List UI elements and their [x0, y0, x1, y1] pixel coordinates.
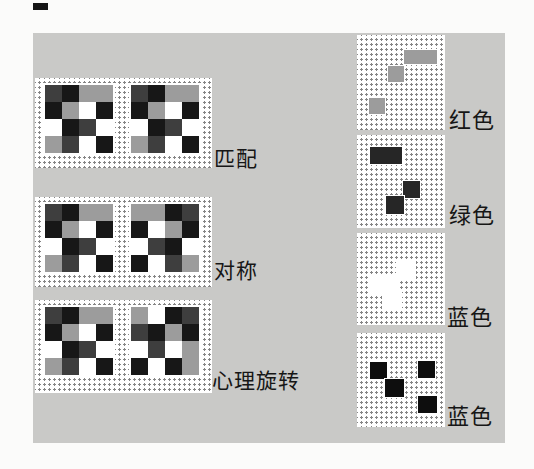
- label-blue-1: 蓝色: [447, 299, 493, 331]
- color-block: [369, 98, 385, 114]
- color-block: [388, 66, 404, 82]
- grid-cell: [96, 238, 113, 255]
- grid-cell: [79, 238, 96, 255]
- scan-artifact-mark: [33, 3, 48, 10]
- grid-cell: [96, 136, 113, 153]
- grid-cell: [148, 119, 165, 136]
- color-block: [370, 147, 402, 164]
- grid-cell: [182, 341, 199, 358]
- grid-cell: [148, 341, 165, 358]
- grid-cell: [148, 307, 165, 324]
- grid-cell: [62, 307, 79, 324]
- grid-cell: [165, 221, 182, 238]
- grid-cell: [182, 324, 199, 341]
- grid-cell: [182, 238, 199, 255]
- grid-cell: [79, 136, 96, 153]
- grid-cell: [96, 341, 113, 358]
- grid-cell: [131, 136, 148, 153]
- color-block: [418, 396, 437, 413]
- grid-cell: [165, 238, 182, 255]
- grid-cell: [79, 324, 96, 341]
- grid-cell: [45, 119, 62, 136]
- grid-cell: [165, 136, 182, 153]
- grid-cell: [148, 136, 165, 153]
- grid-cell: [45, 204, 62, 221]
- grid-cell: [96, 255, 113, 272]
- label-match: 匹配: [214, 142, 258, 172]
- grid-cell: [165, 341, 182, 358]
- panel-symmetry: [35, 197, 212, 287]
- grid-cell: [45, 221, 62, 238]
- grid-cell: [148, 358, 165, 375]
- stimulus-grid-right: [129, 305, 201, 377]
- stimulus-grid-right: [129, 202, 201, 274]
- stimulus-grid-left: [43, 305, 115, 377]
- color-block: [404, 50, 437, 64]
- grid-cell: [148, 238, 165, 255]
- grid-cell: [131, 119, 148, 136]
- color-block: [397, 262, 415, 280]
- grid-cell: [96, 307, 113, 324]
- grid-cell: [182, 85, 199, 102]
- grid-cell: [96, 102, 113, 119]
- grid-cell: [148, 102, 165, 119]
- grid-cell: [62, 255, 79, 272]
- color-block: [386, 196, 404, 214]
- panel-match: [35, 78, 212, 168]
- stimulus-grid-left: [43, 202, 115, 274]
- grid-cell: [182, 102, 199, 119]
- grid-cell: [62, 85, 79, 102]
- grid-cell: [45, 255, 62, 272]
- grid-cell: [182, 358, 199, 375]
- panel-mental-rotation: [35, 300, 212, 393]
- grid-cell: [148, 204, 165, 221]
- grid-cell: [148, 255, 165, 272]
- grid-cell: [45, 136, 62, 153]
- grid-cell: [148, 324, 165, 341]
- grid-cell: [182, 255, 199, 272]
- stimulus-grid-left: [43, 83, 115, 155]
- grid-cell: [45, 85, 62, 102]
- grid-cell: [45, 341, 62, 358]
- color-block: [370, 362, 387, 379]
- grid-cell: [45, 307, 62, 324]
- stimulus-grid-right: [129, 83, 201, 155]
- grid-cell: [79, 85, 96, 102]
- color-block: [418, 361, 435, 378]
- panel-green: [357, 135, 445, 228]
- grid-cell: [131, 85, 148, 102]
- grid-cell: [96, 204, 113, 221]
- grid-cell: [182, 119, 199, 136]
- grid-cell: [165, 119, 182, 136]
- grid-cell: [131, 341, 148, 358]
- grid-cell: [182, 221, 199, 238]
- grid-cell: [62, 341, 79, 358]
- grid-cell: [79, 255, 96, 272]
- grid-cell: [96, 85, 113, 102]
- label-symmetry: 对称: [214, 254, 258, 284]
- grid-cell: [45, 358, 62, 375]
- grid-cell: [131, 255, 148, 272]
- grid-cell: [96, 358, 113, 375]
- grid-cell: [165, 324, 182, 341]
- grid-cell: [62, 238, 79, 255]
- panel-red: [357, 35, 445, 130]
- grid-cell: [96, 324, 113, 341]
- grid-cell: [62, 221, 79, 238]
- grid-cell: [96, 221, 113, 238]
- grid-cell: [131, 307, 148, 324]
- grid-cell: [79, 358, 96, 375]
- grid-cell: [165, 255, 182, 272]
- grid-cell: [148, 85, 165, 102]
- grid-cell: [165, 85, 182, 102]
- grid-cell: [148, 221, 165, 238]
- color-block: [403, 181, 420, 198]
- grid-cell: [182, 204, 199, 221]
- grid-cell: [79, 102, 96, 119]
- grid-cell: [131, 238, 148, 255]
- grid-cell: [62, 102, 79, 119]
- grid-cell: [62, 324, 79, 341]
- grid-cell: [62, 136, 79, 153]
- label-blue-2: 蓝色: [447, 398, 493, 430]
- color-block: [385, 379, 404, 397]
